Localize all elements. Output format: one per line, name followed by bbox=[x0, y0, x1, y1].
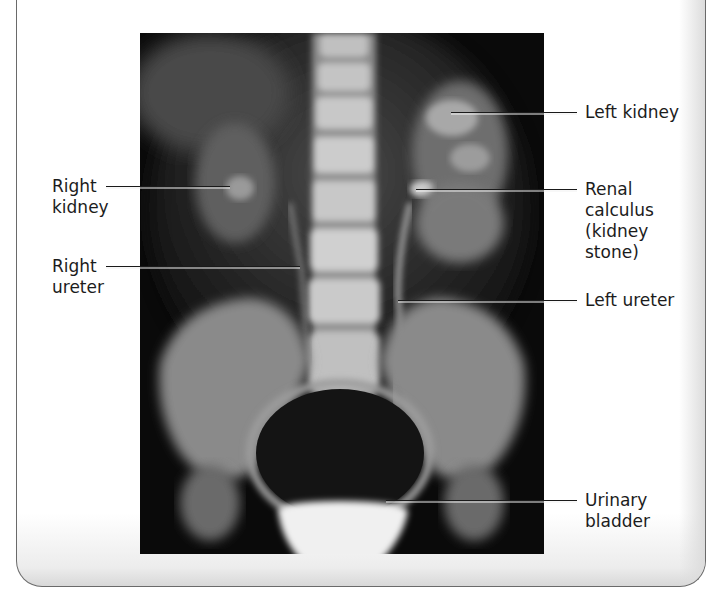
leader-urinary-bladder bbox=[386, 500, 577, 501]
label-right-ureter-line1: Right bbox=[52, 256, 104, 277]
leader-right-kidney bbox=[106, 186, 230, 187]
label-left-ureter: Left ureter bbox=[585, 290, 674, 311]
label-right-kidney-line2: kidney bbox=[52, 197, 109, 218]
label-right-ureter: Right ureter bbox=[52, 256, 104, 298]
label-renal-calculus-line1: Renal bbox=[585, 179, 654, 200]
label-left-kidney-line1: Left kidney bbox=[585, 102, 679, 123]
label-left-kidney: Left kidney bbox=[585, 102, 679, 123]
label-renal-calculus-line2: calculus bbox=[585, 200, 654, 221]
label-right-kidney: Right kidney bbox=[52, 176, 109, 218]
label-renal-calculus-line3: (kidney bbox=[585, 221, 654, 242]
label-right-ureter-line2: ureter bbox=[52, 277, 104, 298]
leader-renal-calculus bbox=[416, 189, 577, 190]
label-urinary-bladder-line1: Urinary bbox=[585, 490, 650, 511]
label-renal-calculus-line4: stone) bbox=[585, 242, 654, 263]
label-urinary-bladder: Urinary bladder bbox=[585, 490, 650, 532]
label-right-kidney-line1: Right bbox=[52, 176, 109, 197]
leader-right-ureter bbox=[106, 266, 300, 267]
leader-left-ureter bbox=[398, 300, 577, 301]
label-renal-calculus: Renal calculus (kidney stone) bbox=[585, 179, 654, 263]
leader-left-kidney bbox=[451, 112, 577, 113]
label-left-ureter-line1: Left ureter bbox=[585, 290, 674, 311]
label-urinary-bladder-line2: bladder bbox=[585, 511, 650, 532]
